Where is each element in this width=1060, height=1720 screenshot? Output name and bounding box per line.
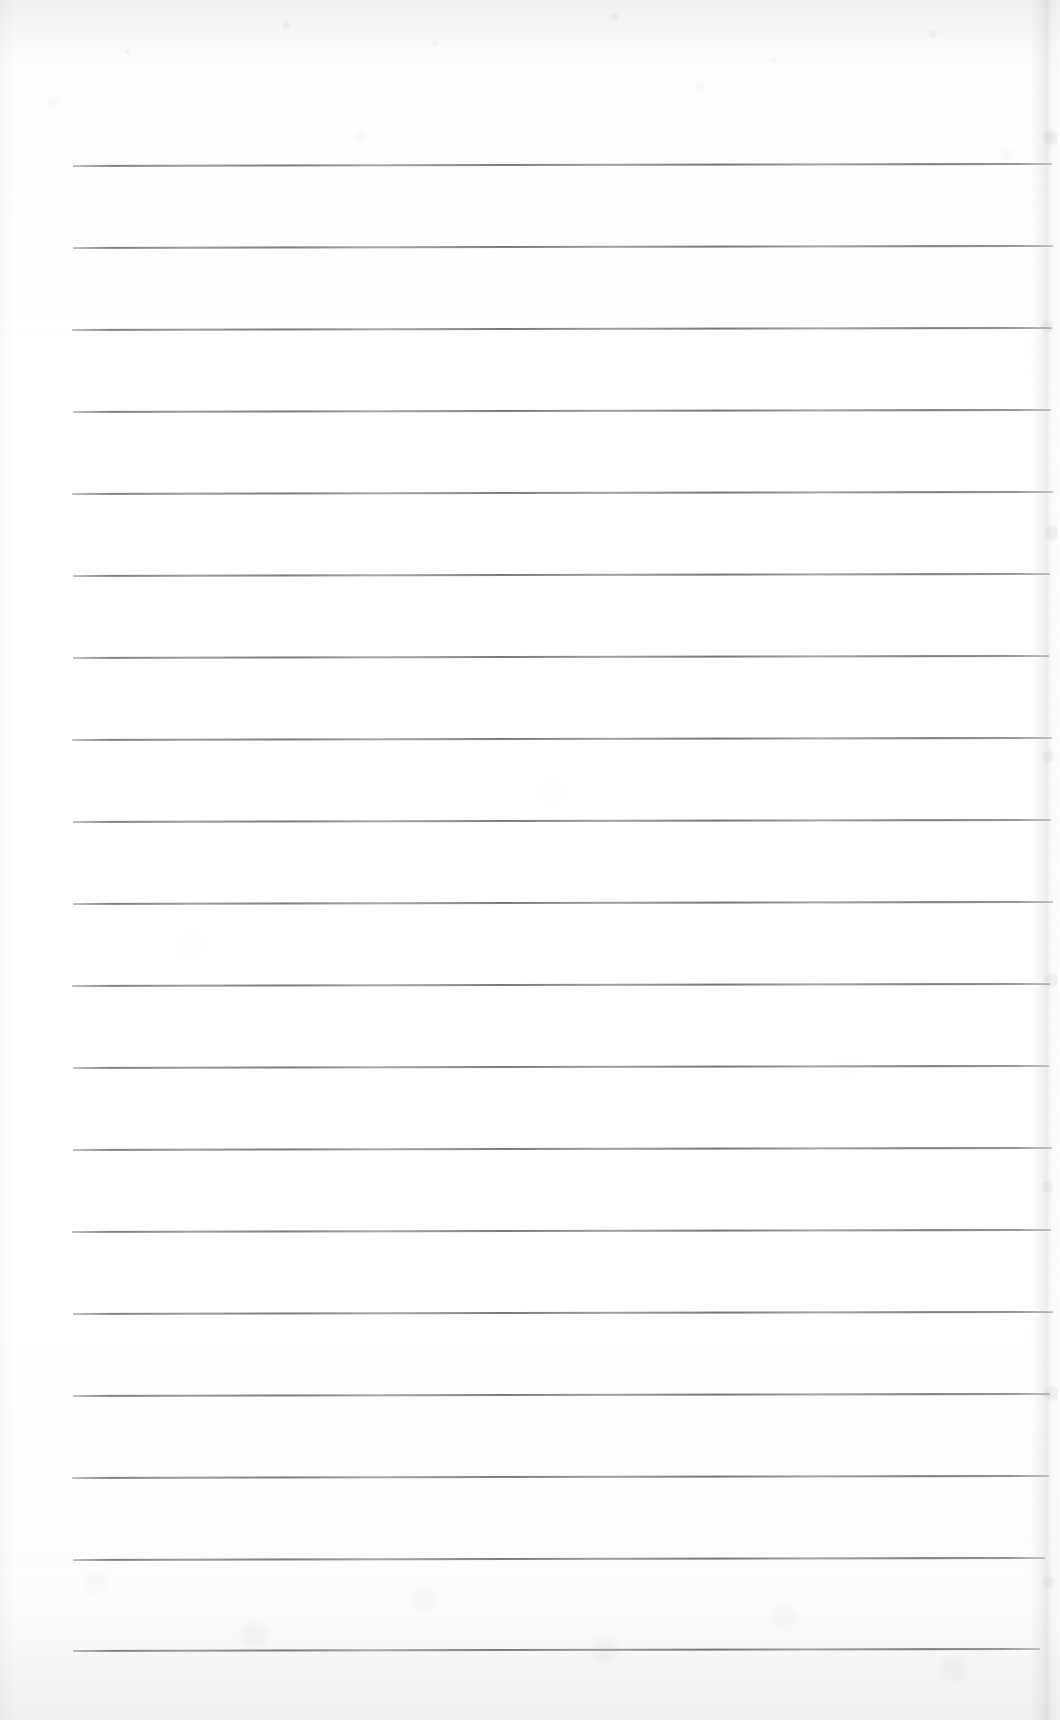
ruled-line	[73, 573, 1050, 577]
ruled-line	[73, 1147, 1052, 1151]
ruled-line	[73, 245, 1053, 249]
ruled-line	[73, 409, 1051, 413]
ruled-line	[73, 655, 1049, 659]
ruled-line	[72, 737, 1052, 741]
ruled-line	[73, 1065, 1049, 1069]
ruled-line	[73, 901, 1053, 905]
ruled-line	[72, 1475, 1049, 1479]
ruled-line	[72, 1229, 1051, 1233]
ruled-line	[73, 1557, 1045, 1561]
ruled-line	[73, 819, 1051, 823]
ruled-line	[73, 163, 1052, 167]
right-page-edge-nicks	[1040, 0, 1058, 1720]
ruled-lines-group	[0, 0, 1060, 1720]
scanned-page	[0, 0, 1060, 1720]
ruled-line	[72, 983, 1050, 987]
ruled-line	[72, 491, 1053, 495]
ruled-line	[72, 327, 1052, 331]
ruled-line	[73, 1393, 1050, 1397]
ruled-line	[73, 1311, 1053, 1315]
ruled-line	[73, 1648, 1040, 1652]
